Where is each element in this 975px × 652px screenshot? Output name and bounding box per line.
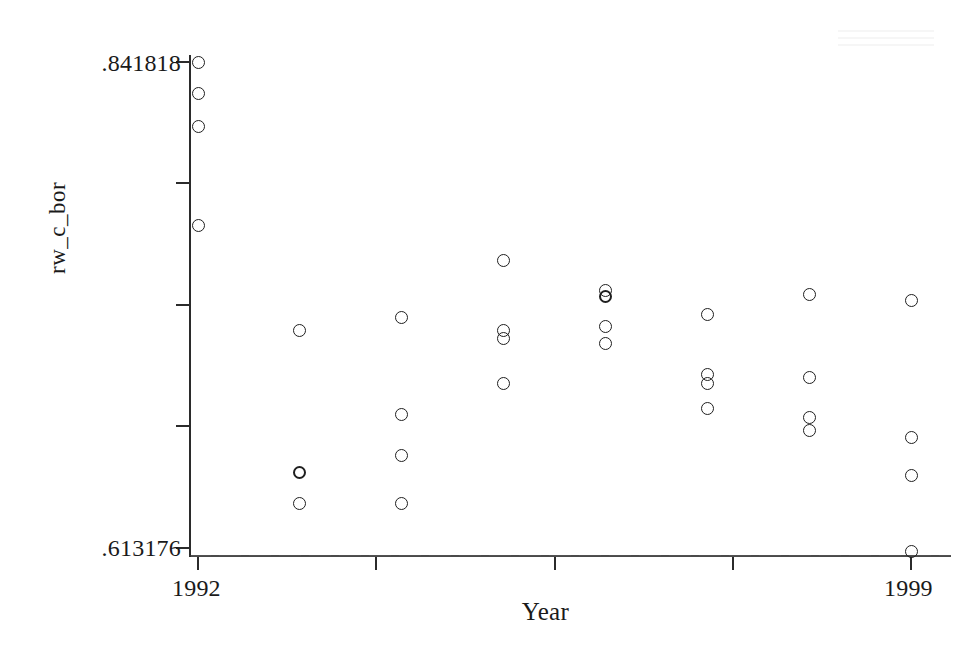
data-point [905,545,918,558]
data-point [293,324,306,337]
data-point [803,288,816,301]
data-point [395,408,408,421]
data-point [395,449,408,462]
data-point [803,371,816,384]
data-point [599,290,612,303]
data-point [905,431,918,444]
data-point [599,337,612,350]
data-points-layer [0,0,975,652]
data-point [395,311,408,324]
data-point [192,56,205,69]
data-point [701,377,714,390]
scatter-plot-figure: .841818 .613176 1992 1999 rw_c_bor Year [0,0,975,652]
data-point [599,320,612,333]
data-point [905,294,918,307]
data-point [293,497,306,510]
data-point [803,424,816,437]
data-point [701,308,714,321]
data-point [192,120,205,133]
data-point [192,87,205,100]
data-point [395,497,408,510]
data-point [497,377,510,390]
data-point [701,402,714,415]
data-point [497,254,510,267]
data-point [192,219,205,232]
data-point [497,332,510,345]
data-point [803,411,816,424]
data-point [293,466,306,479]
data-point [905,469,918,482]
